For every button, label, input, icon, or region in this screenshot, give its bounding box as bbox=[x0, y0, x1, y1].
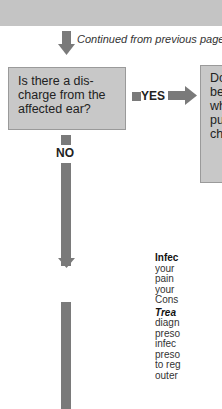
yes-connector bbox=[132, 92, 141, 101]
continued-note: Continued from previous page bbox=[77, 33, 222, 45]
answer-line: wh bbox=[210, 99, 222, 113]
continuation-arrow-shaft bbox=[61, 302, 71, 409]
info-line: diagn bbox=[155, 318, 222, 329]
down-arrow-icon bbox=[58, 258, 75, 268]
yes-label: YES bbox=[141, 89, 165, 103]
page-header-band bbox=[0, 0, 222, 26]
question-line: Is there a dis- bbox=[18, 74, 125, 88]
info-line: infec bbox=[155, 339, 222, 350]
info-text-block: Infec your pain your Cons Trea diagn pre… bbox=[155, 253, 222, 381]
info-line: outer bbox=[155, 371, 222, 382]
answer-box: Do be wh pu ch bbox=[200, 65, 222, 183]
right-arrow-icon bbox=[168, 86, 197, 105]
question-line: charge from the bbox=[18, 88, 125, 102]
no-arrow-shaft bbox=[61, 163, 71, 266]
down-arrow-icon bbox=[58, 31, 75, 55]
info-title: Infec bbox=[155, 253, 222, 264]
info-line: Cons bbox=[155, 295, 222, 306]
answer-line: pu bbox=[210, 113, 222, 127]
info-line: pain bbox=[155, 274, 222, 285]
answer-line: Do bbox=[210, 71, 222, 85]
no-label: NO bbox=[56, 146, 74, 160]
info-line: to reg bbox=[155, 360, 222, 371]
answer-line: be bbox=[210, 85, 222, 99]
no-connector bbox=[61, 135, 71, 145]
answer-line: ch bbox=[210, 127, 222, 141]
question-box: Is there a dis- charge from the affected… bbox=[8, 67, 126, 130]
question-line: affected ear? bbox=[18, 102, 125, 116]
